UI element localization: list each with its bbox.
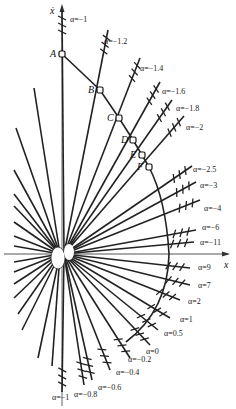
vertical-axis-label: ẋ <box>49 5 55 16</box>
trajectory-point-label: A <box>49 48 57 59</box>
isocline-line <box>64 254 84 385</box>
singular-region <box>51 247 65 269</box>
isocline-label: α=−1 <box>52 393 69 402</box>
isocline-label: α=−1.4 <box>140 64 163 73</box>
isocline-label: α=1 <box>180 315 193 324</box>
trajectory-point-label: B <box>88 84 94 95</box>
isocline-label: α=−1.2 <box>104 37 127 46</box>
phase-trajectory <box>62 54 169 342</box>
trajectory-point-label: E <box>129 149 136 160</box>
isocline-line <box>64 254 130 358</box>
isocline-label: α=−2 <box>186 123 203 132</box>
trajectory-point-marker <box>146 164 152 170</box>
isocline-line <box>64 100 172 254</box>
trajectory-point-marker <box>139 152 145 158</box>
isocline-line <box>64 30 108 254</box>
isocline-label: α=9 <box>198 263 211 272</box>
isocline-label: α=−2.5 <box>193 165 216 174</box>
isocline-label: α=−1 <box>70 15 87 24</box>
isocline-line <box>64 254 110 370</box>
isocline-label: α=−6 <box>202 223 219 232</box>
trajectory-point-marker <box>59 51 65 57</box>
trajectory-point-label: D <box>120 134 129 145</box>
isocline-label: α=−0.8 <box>74 390 97 399</box>
isocline-line <box>64 230 196 254</box>
isocline-label: α=−0.2 <box>128 355 151 364</box>
isocline-label: α=−0.6 <box>98 383 121 392</box>
horizontal-axis-label: x <box>223 259 229 270</box>
isocline-label: α=−11 <box>200 238 221 247</box>
left-isocline-fan <box>14 88 60 366</box>
trajectory-point-marker <box>97 87 103 93</box>
trajectory-point-marker <box>116 115 122 121</box>
trajectory-point-marker <box>130 137 136 143</box>
isocline-label: α=−0.4 <box>116 368 139 377</box>
isocline-label: α=−4 <box>204 204 221 213</box>
isocline-diagram: ẋxα=−1α=−1.2α=−1.4α=−1.6α=−1.8α=−2α=−2.5… <box>0 0 236 409</box>
isocline-label: α=2 <box>188 297 201 306</box>
trajectory-point-label: C <box>107 112 114 123</box>
isocline-label: α=7 <box>198 281 211 290</box>
isocline-label: α=−1.8 <box>176 104 199 113</box>
isocline-label: α=−3 <box>200 181 217 190</box>
trajectory-point-label: F <box>136 161 144 172</box>
isocline-label: α=−1.6 <box>162 87 185 96</box>
horizontal-axis-arrow-icon <box>222 252 230 257</box>
isocline-label: α=0.5 <box>164 329 183 338</box>
singular-region-right <box>64 244 74 260</box>
